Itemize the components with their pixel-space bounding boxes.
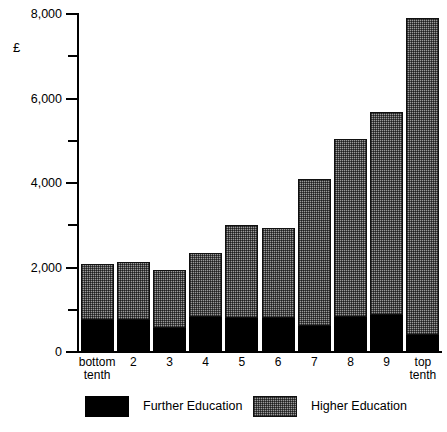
bar-segment-further-education[interactable]	[117, 320, 150, 352]
bar-group[interactable]	[334, 139, 367, 352]
chart-container: £ 02,0004,0006,0008,000 bottom tenth2345…	[0, 0, 447, 432]
bar-group[interactable]	[298, 179, 331, 352]
x-axis-label: top tenth	[401, 356, 445, 382]
bar-segment-higher-education[interactable]	[406, 18, 439, 334]
bar-segment-further-education[interactable]	[298, 326, 331, 352]
legend-swatch-further-education	[85, 396, 129, 417]
bar-segment-further-education[interactable]	[153, 328, 186, 352]
bar-segment-higher-education[interactable]	[189, 253, 222, 317]
bar-group[interactable]	[117, 262, 150, 352]
bar-segment-higher-education[interactable]	[298, 179, 331, 326]
bar-segment-higher-education[interactable]	[117, 262, 150, 320]
bar-segment-higher-education[interactable]	[225, 225, 258, 318]
bar-segment-higher-education[interactable]	[262, 228, 295, 318]
bar-group[interactable]	[225, 225, 258, 352]
bar-group[interactable]	[189, 253, 222, 352]
bar-segment-further-education[interactable]	[370, 315, 403, 352]
bar-segment-further-education[interactable]	[406, 335, 439, 352]
bar-group[interactable]	[153, 270, 186, 352]
legend-item-higher-education: Higher Education	[253, 396, 407, 417]
legend-item-further-education: Further Education	[85, 396, 242, 417]
legend-label-higher-education: Higher Education	[311, 400, 407, 413]
bar-segment-further-education[interactable]	[81, 320, 114, 352]
bar-segment-higher-education[interactable]	[370, 112, 403, 315]
bar-segment-further-education[interactable]	[189, 317, 222, 352]
bar-group[interactable]	[370, 112, 403, 352]
bar-segment-higher-education[interactable]	[81, 264, 114, 320]
bar-segment-higher-education[interactable]	[153, 270, 186, 328]
bar-segment-further-education[interactable]	[225, 318, 258, 352]
bar-group[interactable]	[81, 264, 114, 352]
legend-swatch-higher-education	[253, 396, 297, 417]
bar-segment-higher-education[interactable]	[334, 139, 367, 317]
bar-segment-further-education[interactable]	[334, 317, 367, 352]
bar-group[interactable]	[262, 228, 295, 352]
bar-segment-further-education[interactable]	[262, 318, 295, 352]
bar-group[interactable]	[406, 18, 439, 352]
chart-legend: Further Education Higher Education	[0, 396, 447, 426]
legend-label-further-education: Further Education	[143, 400, 242, 413]
